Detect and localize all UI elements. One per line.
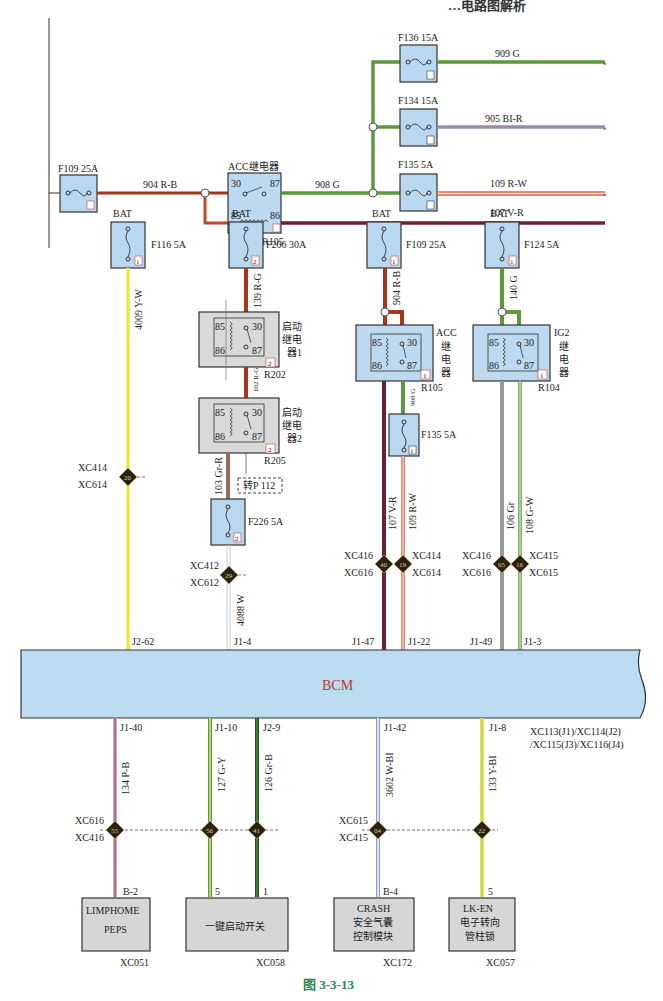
splice-56: 56 bbox=[201, 821, 219, 839]
box-num: 2 bbox=[253, 258, 257, 266]
wiring-diagram: …电路图解析 F109 25A 904 R-B ACC继电器 30 87 85 … bbox=[0, 0, 663, 1001]
pin-label: 86 bbox=[270, 210, 280, 221]
wire-label: 127 G-Y bbox=[216, 757, 227, 792]
splice-num: 04 bbox=[374, 827, 382, 835]
wire-label: 905 BI-R bbox=[485, 113, 523, 124]
wire-label: 140 G bbox=[508, 275, 519, 300]
module-crash: CRASH 安全气囊 控制模块 XC172 bbox=[334, 898, 414, 968]
pin-label: 30 bbox=[252, 407, 262, 418]
svg-text:»: » bbox=[603, 190, 607, 198]
figure-caption: 图 3-3-13 bbox=[303, 977, 354, 992]
branch-f134: F134 15A 905 BI-R » bbox=[398, 95, 607, 146]
pin-label: J2-62 bbox=[132, 636, 154, 647]
connector-label: XC414 bbox=[412, 550, 441, 561]
pin-label: J1-3 bbox=[524, 636, 541, 647]
relay-title: ACC继电器 bbox=[228, 160, 279, 172]
pin-label: 30 bbox=[407, 337, 417, 348]
box-num: 2 bbox=[268, 360, 272, 368]
fuse-label: F135 5A bbox=[398, 159, 434, 170]
module-peps: LIMPHOME PEPS XC051 bbox=[82, 898, 150, 968]
module-label: CRASH bbox=[357, 903, 390, 914]
splice-num: 55 bbox=[111, 827, 119, 835]
module-pin: 5 bbox=[215, 886, 220, 897]
relay-label: 器 bbox=[441, 367, 451, 378]
module-label: 控制模块 bbox=[353, 930, 393, 942]
module-connector: XC051 bbox=[120, 957, 149, 968]
module-label: 安全气囊 bbox=[353, 916, 393, 928]
relay-label: IG2 bbox=[554, 327, 570, 338]
wire-label: 134 P-B bbox=[120, 762, 131, 795]
bcm-connector-label: XC113(J1)/XC114(J2) bbox=[530, 726, 621, 738]
wire-label: 107 V-R bbox=[387, 496, 398, 530]
module-label: 管柱锁 bbox=[465, 930, 495, 942]
fuse-label: F135 5A bbox=[421, 429, 457, 440]
pin-label: 85 bbox=[215, 407, 225, 418]
relay-label: 继 bbox=[441, 340, 451, 352]
splice-num: 29 bbox=[225, 572, 233, 580]
module-label: 电子转向 bbox=[460, 916, 500, 928]
pin-label: 87 bbox=[252, 431, 262, 442]
pin-label: 30 bbox=[524, 337, 534, 348]
wire-label: 904 R-B bbox=[143, 179, 178, 190]
splice-node bbox=[201, 189, 209, 197]
relay-ref: R104 bbox=[538, 382, 560, 393]
module-pin: 5 bbox=[488, 886, 493, 897]
column-f116: BAT 1 F116 5A 4009 Y-W bbox=[111, 208, 187, 650]
splice-22: 22 bbox=[473, 821, 491, 839]
connector-label: XC616 bbox=[344, 567, 373, 578]
svg-text:»: » bbox=[603, 59, 607, 67]
pin-label: 85 bbox=[372, 337, 382, 348]
wire-label: 108 G-W bbox=[524, 496, 535, 534]
module-label: LIMPHOME bbox=[86, 905, 139, 916]
connector-label: XC415 bbox=[529, 550, 558, 561]
fuse-label: F134 15A bbox=[398, 95, 439, 106]
connector-label: XC616 bbox=[75, 815, 104, 826]
pin-label: J1-8 bbox=[489, 722, 506, 733]
pin-label: 85 bbox=[489, 337, 499, 348]
module-label: LK-EN bbox=[463, 903, 493, 914]
connector-label: XC415 bbox=[339, 832, 368, 843]
box-num: 2 bbox=[268, 446, 272, 454]
wire-label: 109 R-W bbox=[407, 493, 418, 531]
relay-label: ACC bbox=[436, 327, 457, 338]
splice-node bbox=[369, 123, 377, 131]
module-pin: B-2 bbox=[123, 886, 138, 897]
splice-num: 56 bbox=[206, 827, 214, 835]
wire-label: 4009 Y-W bbox=[133, 288, 144, 330]
relay-label: 电 bbox=[559, 353, 569, 365]
module-label: 一键启动开关 bbox=[205, 920, 265, 932]
module-pin: B-4 bbox=[383, 886, 398, 897]
page-header: …电路图解析 bbox=[448, 0, 526, 13]
pin-label: 85 bbox=[215, 321, 225, 332]
relay-ref: R205 bbox=[264, 455, 286, 466]
relay-ref: R202 bbox=[264, 369, 286, 380]
wire-label: 109 R-W bbox=[490, 178, 528, 189]
wire-label: 908 G bbox=[315, 179, 340, 190]
wire-label: 4088 W bbox=[235, 594, 246, 626]
box-num: 1 bbox=[423, 372, 427, 380]
pin-label: 86 bbox=[489, 360, 499, 371]
pin-label: J1-22 bbox=[408, 636, 430, 647]
splice-16: 16 XC415 XC615 bbox=[511, 550, 558, 578]
pin-label: 30 bbox=[252, 321, 262, 332]
connector-label: XC614 bbox=[412, 567, 441, 578]
source-label: BAT bbox=[232, 208, 251, 219]
module-connector: XC172 bbox=[383, 957, 412, 968]
fuse-label: F124 5A bbox=[524, 239, 560, 250]
column-f124: BAT 1 F124 5A 140 G 85 30 86 87 1 IG2 继 … bbox=[473, 208, 570, 650]
bcm-label: BCM bbox=[322, 678, 354, 693]
fuse-label-f109: F109 25A bbox=[58, 163, 99, 174]
connector-label: XC614 bbox=[78, 479, 107, 490]
source-label: BAT bbox=[490, 208, 509, 219]
pin-label: 86 bbox=[215, 431, 225, 442]
fuse-label: F226 5A bbox=[248, 516, 284, 527]
connector-label: XC416 bbox=[462, 550, 491, 561]
module-connector: XC058 bbox=[256, 957, 285, 968]
splice-20: 20 XC414 XC614 bbox=[78, 462, 146, 490]
fuse-label: F116 5A bbox=[151, 239, 187, 250]
box-num: 1 bbox=[392, 258, 396, 266]
relay-label: 继电 bbox=[282, 333, 302, 345]
pin-label: 86 bbox=[372, 360, 382, 371]
module-pin: 1 bbox=[263, 886, 268, 897]
box-num: 1 bbox=[510, 258, 514, 266]
